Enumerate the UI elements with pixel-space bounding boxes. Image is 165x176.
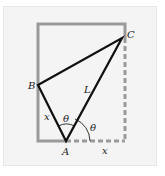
label-point-b: B: [27, 80, 35, 91]
fold-triangle: [38, 38, 122, 141]
label-segment-ac-l: L: [83, 84, 91, 95]
label-bottom-x: x: [102, 145, 108, 156]
label-angle-theta-top: θ: [63, 113, 69, 124]
label-point-a: A: [61, 146, 69, 157]
angle-arc-theta-top: [59, 124, 75, 126]
label-angle-theta-right: θ: [90, 122, 96, 133]
label-point-c: C: [127, 29, 135, 40]
folded-paper-diagram: A B C x L x θ θ: [0, 0, 165, 176]
label-segment-ab-x: x: [44, 111, 50, 122]
